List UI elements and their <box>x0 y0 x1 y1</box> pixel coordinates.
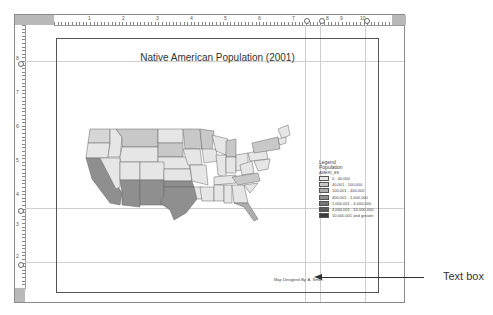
guide-marker[interactable] <box>18 262 24 268</box>
callout-label: Text box <box>443 270 484 282</box>
ruler-end <box>15 288 25 302</box>
map-legend[interactable]: Legend Population AMERI_ES 0 - 40,000 40… <box>319 160 374 219</box>
ruler-label: 2 <box>16 253 19 259</box>
ruler-label: 7 <box>16 89 19 95</box>
guide-marker[interactable] <box>18 61 24 67</box>
us-map[interactable] <box>82 115 302 225</box>
top-ruler[interactable]: 1 2 3 4 5 6 7 8 9 10 <box>54 15 404 26</box>
guide-marker[interactable] <box>304 18 310 24</box>
legend-item: 400,001 - 1,000,000 <box>319 194 374 200</box>
ruler-label: 3 <box>156 15 159 21</box>
legend-swatch <box>319 213 329 218</box>
legend-label: 400,001 - 1,000,000 <box>332 195 368 200</box>
legend-swatch <box>319 188 329 193</box>
legend-label: 1,000,001 - 4,000,000 <box>332 201 371 206</box>
ruler-label: 5 <box>224 15 227 21</box>
ruler-label: 1 <box>88 15 91 21</box>
legend-swatch <box>319 201 329 206</box>
legend-swatch <box>319 195 329 200</box>
ruler-label: 6 <box>258 15 261 21</box>
page-frame[interactable]: Native American Population (2001) <box>56 38 379 293</box>
ruler-label: 7 <box>292 15 295 21</box>
legend-item: 1,000,001 - 4,000,000 <box>319 200 374 206</box>
legend-swatch <box>319 182 329 187</box>
legend-label: 40,001 - 100,000 <box>332 182 362 187</box>
ruler-end <box>392 15 406 25</box>
ruler-label: 3 <box>16 221 19 227</box>
legend-swatch <box>319 207 329 212</box>
legend-item: 4,000,001 - 10,000,000 <box>319 206 374 212</box>
callout-arrow <box>320 277 424 278</box>
legend-label: 4,000,001 - 10,000,000 <box>332 207 373 212</box>
legend-label: 0 - 40,000 <box>332 176 350 181</box>
guide-marker[interactable] <box>319 18 325 24</box>
guide-marker[interactable] <box>364 18 370 24</box>
layout-window: 1 2 3 4 5 6 7 8 9 10 8 7 6 5 4 3 2 Nativ… <box>14 14 405 303</box>
ruler-label: 4 <box>16 191 19 197</box>
ruler-label: 5 <box>16 157 19 163</box>
map-title[interactable]: Native American Population (2001) <box>57 52 378 63</box>
legend-item: 10,000,001 and greater <box>319 213 374 219</box>
ruler-label: 4 <box>190 15 193 21</box>
ruler-corner <box>15 15 54 25</box>
legend-label: 10,000,001 and greater <box>332 213 374 218</box>
guide-marker[interactable] <box>18 208 24 214</box>
ruler-label: 2 <box>122 15 125 21</box>
legend-swatch <box>319 176 329 181</box>
ruler-label: 8 <box>16 55 19 61</box>
ruler-label: 8 <box>326 15 329 21</box>
legend-label: 100,001 - 400,000 <box>332 188 364 193</box>
left-ruler[interactable]: 8 7 6 5 4 3 2 <box>15 25 26 289</box>
ruler-label: 9 <box>340 15 343 21</box>
ruler-label: 6 <box>16 123 19 129</box>
